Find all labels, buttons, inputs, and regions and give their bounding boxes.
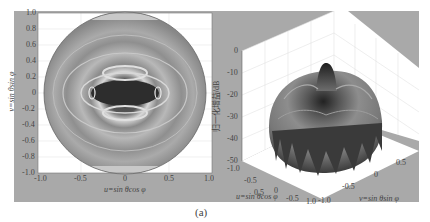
x-tick: 1.0 xyxy=(204,175,214,183)
u-tick: -0.5 xyxy=(244,177,257,185)
z-tick: -10 xyxy=(227,69,238,77)
v-axis-label: v=sin θsin φ xyxy=(359,194,399,203)
z-axis-label: 归一化增益/dB xyxy=(210,81,221,133)
x-axis-label: u=sin θcos φ xyxy=(104,185,146,194)
u-tick: -1.0 xyxy=(227,165,240,173)
x-tick: -1.0 xyxy=(34,175,47,183)
y-axis-label: v=sin θsin φ xyxy=(7,72,16,112)
y-tick: 0.6 xyxy=(26,41,36,49)
v-tick: 0 xyxy=(374,171,378,179)
v-tick: 0.5 xyxy=(396,159,406,167)
y-tick: -0.8 xyxy=(22,153,35,161)
figure-caption: (a) xyxy=(195,206,207,218)
u-tick: -0.5 xyxy=(286,195,299,203)
y-tick: 0.8 xyxy=(26,25,36,33)
v-tick: -0.5 xyxy=(342,183,355,191)
contour-plot-panel: 1.0 0.8 0.6 0.4 0.2 0 -0.2 -0.4 -0.6 -0.… xyxy=(14,11,214,202)
y-tick: -0.2 xyxy=(22,105,35,113)
y-tick: 0.2 xyxy=(26,73,36,81)
y-tick: 1.0 xyxy=(26,9,36,17)
z-tick: -40 xyxy=(227,135,238,143)
z-tick: 0 xyxy=(234,47,238,55)
surface-plot-panel: 0 -10 -20 -30 -40 -50 -1.0 -0.5 0 -0.5 -… xyxy=(214,11,419,202)
x-tick: 0.5 xyxy=(164,175,174,183)
y-tick: 0.4 xyxy=(26,57,36,65)
y-tick: -0.4 xyxy=(22,121,35,129)
x-tick: -0.5 xyxy=(74,175,87,183)
y-tick: -0.6 xyxy=(22,137,35,145)
z-tick: -30 xyxy=(227,113,238,121)
u-tick: 1.0 xyxy=(306,198,316,206)
u-tick: 0.5 xyxy=(254,189,264,197)
v-tick: -1.0 xyxy=(318,197,331,205)
z-tick: -20 xyxy=(227,91,238,99)
surface-plot xyxy=(214,11,419,202)
y-tick: -1.0 xyxy=(22,169,35,177)
x-tick: 0 xyxy=(123,175,127,183)
y-tick: 0 xyxy=(32,89,36,97)
